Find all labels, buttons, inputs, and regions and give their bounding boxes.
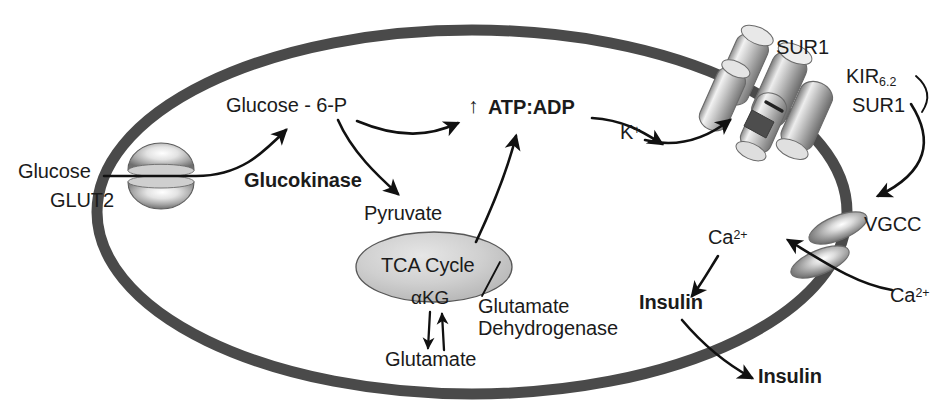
label-sur1-top: SUR1 (776, 37, 829, 58)
label-atp-adp-ratio: ATP:ADP (488, 97, 575, 118)
label-alpha-ketoglutarate: αKG (411, 288, 449, 308)
label-calcium-inside-base: Ca (708, 226, 733, 248)
label-glutamate-dehydrogenase: Glutamate Dehydrogenase (478, 295, 618, 340)
arrow-ca-to-insulin (692, 256, 718, 296)
label-calcium-outside-base: Ca (890, 284, 915, 306)
label-glutamate: Glutamate (385, 349, 476, 370)
label-glucokinase: Glucokinase (244, 170, 362, 191)
label-calcium-inside: Ca2+ (708, 227, 748, 248)
label-atp-adp-increase-arrow: ↑ (468, 95, 478, 117)
arrow-tca-to-atpadp (476, 136, 516, 242)
label-calcium-outside: Ca2+ (890, 285, 930, 306)
label-potassium-ion-charge: + (633, 123, 640, 137)
label-kir-base: KIR (846, 65, 879, 87)
label-glucose-outside: Glucose (18, 161, 91, 182)
label-kir-6-2: KIR6.2 (846, 66, 896, 89)
label-glutamate-dehydrogenase-line2: Dehydrogenase (478, 317, 618, 339)
label-tca-cycle: TCA Cycle (381, 255, 475, 276)
label-sur1-right: SUR1 (852, 95, 905, 116)
label-insulin-intracellular: Insulin (639, 292, 703, 313)
arrow-depolarization-to-vgcc (878, 104, 924, 196)
label-insulin-secreted: Insulin (758, 366, 822, 387)
label-vgcc: VGCC (864, 214, 921, 235)
label-glutamate-dehydrogenase-line1: Glutamate (478, 295, 618, 317)
label-potassium-ion: K+ (620, 122, 641, 143)
label-calcium-outside-charge: 2+ (915, 286, 929, 300)
brace-kir-sur1 (916, 76, 927, 112)
pathway-diagram-canvas: Glucose GLUT2 Glucose - 6-P Glucokinase … (0, 0, 951, 410)
label-glut2: GLUT2 (50, 190, 114, 211)
label-potassium-ion-base: K (620, 121, 633, 143)
label-calcium-inside-charge: 2+ (733, 228, 747, 242)
label-glucose-6-phosphate: Glucose - 6-P (226, 95, 347, 116)
label-pyruvate: Pyruvate (364, 203, 442, 224)
arrow-akg-to-glutamate (428, 312, 430, 348)
arrow-g6p-to-atpadp (357, 121, 458, 134)
arrow-glutamate-to-akg (442, 314, 444, 350)
label-kir-subscript: 6.2 (879, 75, 896, 89)
